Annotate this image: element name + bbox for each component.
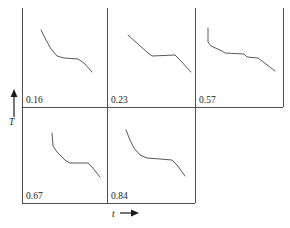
trace-0.84: [126, 130, 185, 176]
panel-traces: [41, 28, 275, 177]
panel-frame-0.57: [195, 8, 283, 107]
panel-frame-0.16: [22, 8, 108, 107]
panel-frame-0.67: [22, 107, 108, 203]
trace-0.57: [208, 28, 275, 71]
panel-label-3: 0.67: [26, 192, 43, 202]
trace-0.23: [128, 35, 191, 72]
y-axis-label: T: [9, 118, 14, 128]
x-axis-label: t: [112, 210, 115, 220]
panel-frame-0.23: [108, 8, 196, 107]
panel-frames: [22, 8, 283, 203]
arrow-up-icon: [11, 89, 18, 117]
panel-label-4: 0.84: [111, 192, 128, 202]
arrow-right-icon: [120, 210, 139, 217]
panel-label-2: 0.57: [199, 96, 216, 106]
figure-canvas: [0, 0, 290, 228]
panel-label-0: 0.16: [26, 96, 43, 106]
figure-panel-grid: 0.16 0.23 0.57 0.67 0.84 T t: [0, 0, 290, 228]
panel-frame-0.84: [108, 107, 196, 203]
trace-0.67: [52, 133, 100, 177]
trace-0.16: [41, 30, 92, 72]
panel-label-1: 0.23: [111, 96, 128, 106]
